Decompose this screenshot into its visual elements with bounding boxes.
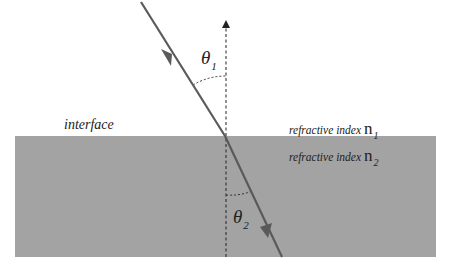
medium-2-label: refractive index n2 <box>289 146 378 168</box>
n2-symbol: n <box>364 146 373 165</box>
theta-2-subscript: 2 <box>243 219 249 231</box>
incident-ray-arrow-icon <box>161 49 172 66</box>
theta-1-label: θ1 <box>201 47 217 72</box>
n1-subscript: 1 <box>373 130 378 141</box>
theta-1-subscript: 1 <box>211 60 217 72</box>
medium-2-text: refractive index <box>289 151 361 163</box>
interface-label: interface <box>64 117 114 133</box>
n2-subscript: 2 <box>373 157 378 168</box>
medium-1-label: refractive index n1 <box>289 119 378 141</box>
refraction-diagram <box>0 0 451 269</box>
theta-1-symbol: θ <box>201 47 210 68</box>
theta-2-symbol: θ <box>233 206 242 227</box>
theta-2-label: θ2 <box>233 206 249 231</box>
medium-1-text: refractive index <box>289 124 361 136</box>
theta-1-arc <box>193 76 226 85</box>
n1-symbol: n <box>364 119 373 138</box>
